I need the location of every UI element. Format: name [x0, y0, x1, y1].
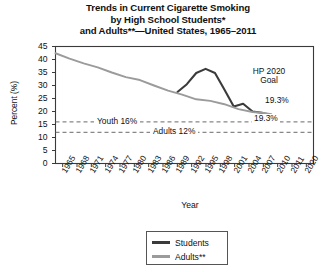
legend-swatch-adults	[152, 255, 170, 258]
chart-container: Trends in Current Cigarette Smoking by H…	[0, 0, 336, 272]
reference-label-adults: Adults 12%	[150, 127, 198, 136]
legend-item-students: Students	[152, 237, 209, 248]
y-tick-45: 45	[22, 42, 48, 51]
y-tick-0: 0	[22, 159, 48, 168]
annotation-adults-value: 19.3%	[252, 114, 280, 123]
reference-label-youth: Youth 16%	[94, 117, 140, 126]
y-tick-40: 40	[22, 55, 48, 64]
y-tick-35: 35	[22, 68, 48, 77]
legend-label-adults: Adults**	[175, 252, 206, 262]
annotation-hp-2020-goal: HP 2020Goal	[246, 67, 292, 86]
y-tick-25: 25	[22, 94, 48, 103]
y-tick-15: 15	[22, 120, 48, 129]
y-tick-5: 5	[22, 146, 48, 155]
chart-legend: Students Adults**	[146, 231, 228, 265]
legend-item-adults: Adults**	[152, 251, 206, 262]
annotation-students-value: 19.3%	[263, 96, 291, 105]
y-tick-30: 30	[22, 81, 48, 90]
legend-label-students: Students	[175, 238, 209, 248]
legend-swatch-students	[152, 241, 170, 244]
y-tick-20: 20	[22, 107, 48, 116]
y-tick-10: 10	[22, 133, 48, 142]
